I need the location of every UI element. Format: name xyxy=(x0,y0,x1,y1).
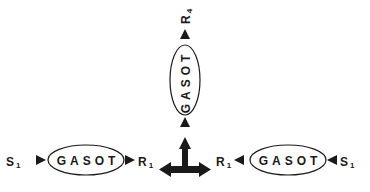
right-output-arrow-icon xyxy=(234,155,244,165)
left-output-label: R1 xyxy=(138,155,154,170)
right-input-label: S1 xyxy=(340,155,355,170)
vertical-gasot-label: GASOT xyxy=(179,51,193,114)
three-way-arrow-icon xyxy=(159,137,211,177)
vertical-input-arrow-icon xyxy=(180,117,190,127)
right-input-arrow-icon xyxy=(327,155,337,165)
left-output-arrow-icon xyxy=(125,155,135,165)
vertical-chain: GASOT R4 xyxy=(170,8,200,127)
right-output-label: R1 xyxy=(216,155,232,170)
vertical-output-label: R4 xyxy=(179,8,194,24)
left-input-label: S1 xyxy=(6,155,21,170)
right-gasot-label: GASOT xyxy=(259,154,322,168)
left-gasot-label: GASOT xyxy=(57,154,120,168)
center-junction xyxy=(159,137,211,177)
vertical-output-arrow-icon xyxy=(180,29,190,39)
left-input-arrow-icon xyxy=(36,155,46,165)
left-chain: S1 GASOT R1 xyxy=(6,145,154,175)
right-chain: R1 GASOT S1 xyxy=(216,145,355,175)
gasot-diagram: S1 GASOT R1 R1 GASOT S1 GASOT R4 xyxy=(0,0,370,192)
